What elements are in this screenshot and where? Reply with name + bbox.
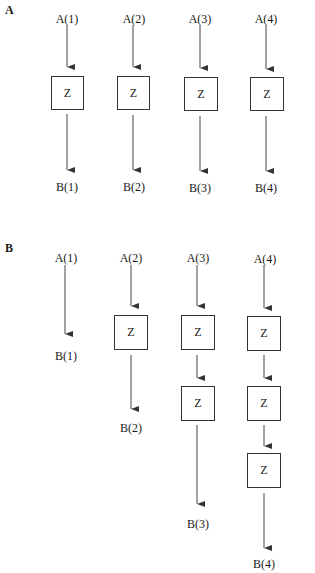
input-label: A(4) <box>254 252 277 267</box>
input-label: A(2) <box>120 251 143 266</box>
output-label: B(1) <box>55 349 77 364</box>
z-box: Z <box>117 76 150 110</box>
output-label: B(2) <box>120 421 142 436</box>
input-label: A(2) <box>123 12 146 27</box>
panel-label-b: B <box>5 241 13 256</box>
z-box: Z <box>51 76 84 110</box>
z-box: Z <box>184 77 218 111</box>
input-label: A(1) <box>55 251 78 266</box>
input-label: A(3) <box>189 12 212 27</box>
input-label: A(1) <box>56 12 79 27</box>
panel-label-a: A <box>5 3 14 18</box>
z-box: Z <box>250 77 284 111</box>
input-label: A(3) <box>187 251 210 266</box>
output-label: B(3) <box>187 517 209 532</box>
z-box: Z <box>247 316 281 351</box>
output-label: B(2) <box>123 180 145 195</box>
z-box: Z <box>247 386 281 421</box>
input-label: A(4) <box>255 12 278 27</box>
output-label: B(4) <box>253 557 275 572</box>
output-label: B(1) <box>56 180 78 195</box>
output-label: B(3) <box>189 181 211 196</box>
z-box: Z <box>247 453 281 488</box>
z-box: Z <box>114 315 148 350</box>
z-box: Z <box>181 315 215 350</box>
z-box: Z <box>181 386 215 421</box>
output-label: B(4) <box>255 181 277 196</box>
